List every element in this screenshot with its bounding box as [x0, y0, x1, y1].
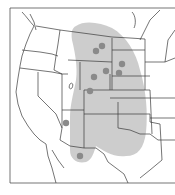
occurrence-dot	[63, 120, 69, 126]
occurrence-dot	[87, 88, 93, 94]
occurrence-dot	[99, 43, 105, 49]
occurrence-dot	[91, 74, 97, 80]
occurrence-dot	[77, 153, 83, 159]
occurrence-dot	[103, 68, 109, 74]
occurrence-dot	[116, 70, 122, 76]
occurrence-dot	[119, 61, 125, 67]
map-canvas	[0, 0, 175, 195]
range-map	[0, 0, 175, 195]
distribution-range-area	[70, 22, 147, 162]
occurrence-dot	[93, 48, 99, 54]
